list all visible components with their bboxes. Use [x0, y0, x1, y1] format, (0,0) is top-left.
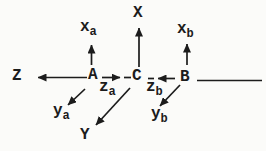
za-label: za [99, 79, 116, 96]
point-c-label: C [132, 68, 142, 84]
axis-x-label: X [133, 5, 143, 21]
axis-y-label: Y [80, 127, 90, 143]
zb-label-sub: b [156, 85, 163, 99]
ya-axis-arrow [68, 89, 85, 105]
yb-axis-arrow [160, 85, 180, 106]
yb-label: yb [151, 106, 168, 123]
ya-label: ya [53, 103, 70, 120]
xb-label-sub: b [187, 27, 194, 41]
zb-label: zb [146, 79, 163, 96]
zb-label-main: z [146, 78, 156, 96]
point-a-label: A [88, 67, 98, 83]
ya-label-main: y [53, 102, 63, 120]
ya-label-sub: a [63, 109, 70, 123]
yb-label-sub: b [161, 112, 168, 126]
za-label-main: z [99, 78, 109, 96]
xb-label-main: x [177, 20, 187, 38]
point-b-label: B [180, 69, 190, 85]
xa-label-sub: a [90, 25, 97, 39]
za-label-sub: a [109, 85, 116, 99]
axis-z-label: Z [12, 68, 22, 84]
xa-label: xa [80, 19, 97, 36]
yb-label-main: y [151, 105, 161, 123]
coordinate-frames-diagram: Z X Y A C B xa za ya xb zb yb [0, 0, 266, 151]
xa-label-main: x [80, 18, 90, 36]
xb-label: xb [177, 21, 194, 38]
